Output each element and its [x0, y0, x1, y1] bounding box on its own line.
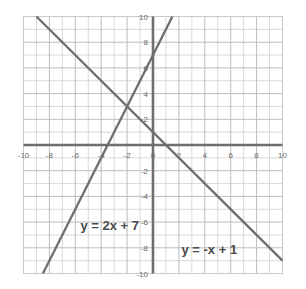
- x-tick-label: -2: [124, 151, 132, 160]
- y-tick-label: -2: [141, 167, 149, 176]
- x-tick-label: 10: [278, 151, 287, 160]
- y-tick-label: -8: [141, 244, 149, 253]
- x-tick-label: -10: [18, 151, 30, 160]
- y-tick-label: 6: [144, 64, 149, 73]
- graph-canvas: -10-8-6-4-20246810 -10-8-6-4-2246810 y =…: [0, 0, 306, 289]
- coordinate-graph: -10-8-6-4-20246810 -10-8-6-4-2246810 y =…: [0, 0, 306, 289]
- y-tick-label: 4: [144, 90, 149, 99]
- equation-label-2: y = -x + 1: [181, 242, 237, 257]
- x-tick-label: 6: [228, 151, 233, 160]
- y-tick-label: 10: [139, 13, 148, 22]
- y-tick-label: 2: [144, 115, 149, 124]
- y-tick-label: 8: [144, 38, 149, 47]
- x-tick-label: 0: [151, 151, 156, 160]
- equation-label-1: y = 2x + 7: [80, 218, 139, 233]
- x-tick-label: 8: [254, 151, 259, 160]
- y-tick-label: -4: [141, 192, 149, 201]
- x-tick-label: -8: [46, 151, 54, 160]
- y-tick-label: -6: [141, 218, 149, 227]
- x-tick-label: 4: [203, 151, 208, 160]
- x-tick-label: -6: [72, 151, 80, 160]
- x-tick-label: -4: [98, 151, 106, 160]
- x-tick-label: 2: [177, 151, 182, 160]
- y-tick-label: -10: [136, 270, 148, 279]
